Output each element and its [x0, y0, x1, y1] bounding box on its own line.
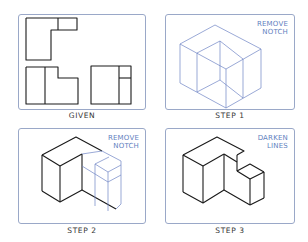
- front-view: [26, 67, 78, 104]
- caption-step2: STEP 2: [52, 226, 112, 235]
- bounding-box-lines: [180, 25, 261, 108]
- caption-step3: STEP 3: [200, 226, 260, 235]
- caption-step1: STEP 1: [200, 111, 260, 120]
- object-lines: [42, 137, 116, 209]
- caption-given: GIVEN: [52, 111, 112, 120]
- note-line: LINES: [258, 142, 288, 150]
- note-step2: REMOVE NOTCH: [108, 134, 139, 150]
- top-view: [26, 18, 77, 60]
- note-line: NOTCH: [108, 142, 139, 150]
- panel-step3: DARKEN LINES: [165, 128, 295, 224]
- panel-step2: REMOVE NOTCH: [18, 128, 146, 224]
- note-line: REMOVE: [108, 134, 139, 142]
- darkened-lines: [183, 137, 264, 205]
- note-line: DARKEN: [258, 134, 288, 142]
- panel-step1: REMOVE NOTCH: [165, 14, 295, 110]
- orthographic-views: [19, 15, 147, 111]
- note-step1: REMOVE NOTCH: [257, 20, 288, 36]
- side-view: [91, 66, 131, 104]
- notch-construction-lines: [82, 151, 121, 211]
- panel-given: [18, 14, 146, 110]
- note-line: NOTCH: [257, 28, 288, 36]
- note-line: REMOVE: [257, 20, 288, 28]
- note-step3: DARKEN LINES: [258, 134, 288, 150]
